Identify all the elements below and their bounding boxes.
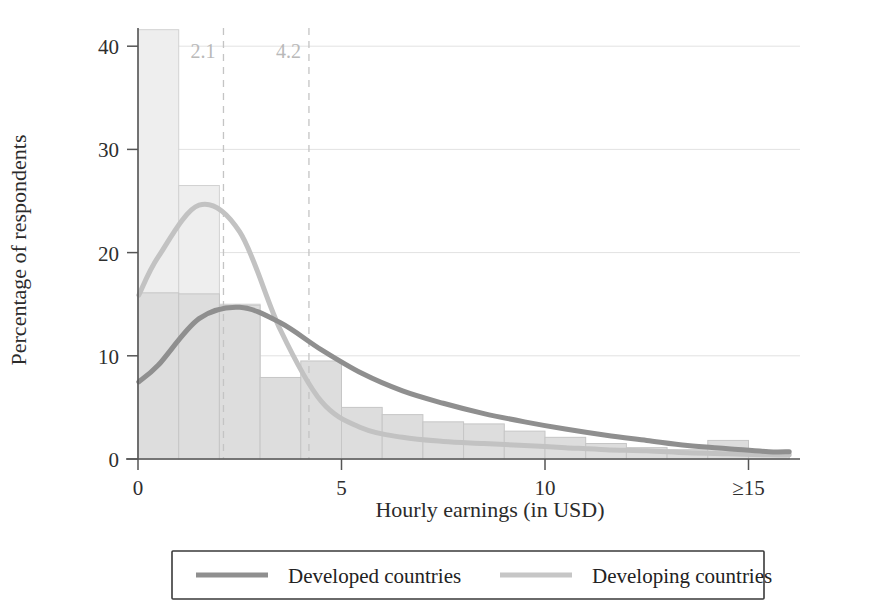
- reference-line-label-4.2: 4.2: [276, 40, 301, 62]
- x-tick-label-5: 5: [336, 476, 347, 500]
- chart-legend: Developed countries Developing countries: [172, 551, 772, 599]
- y-tick-label-40: 40: [98, 35, 119, 59]
- x-tick-label-15: ≥15: [732, 476, 765, 500]
- histogram-density-chart: 2.14.2 0102030400510≥15 Hourly earnings …: [0, 0, 895, 616]
- y-tick-label-10: 10: [98, 345, 119, 369]
- x-axis-title: Hourly earnings (in USD): [375, 497, 604, 522]
- bars-developed-countries: [138, 293, 789, 459]
- reference-line-label-2.1: 2.1: [190, 40, 215, 62]
- y-tick-label-20: 20: [98, 242, 119, 266]
- y-axis-title: Percentage of respondents: [6, 135, 31, 366]
- x-tick-label-0: 0: [133, 476, 144, 500]
- bar-developed-2: [219, 305, 260, 459]
- y-tick-label-0: 0: [109, 448, 120, 472]
- bar-developed-3: [260, 377, 301, 459]
- chart-figure: 2.14.2 0102030400510≥15 Hourly earnings …: [0, 0, 895, 616]
- y-tick-label-30: 30: [98, 138, 119, 162]
- legend-label-developed: Developed countries: [288, 564, 461, 588]
- legend-label-developing: Developing countries: [592, 564, 772, 588]
